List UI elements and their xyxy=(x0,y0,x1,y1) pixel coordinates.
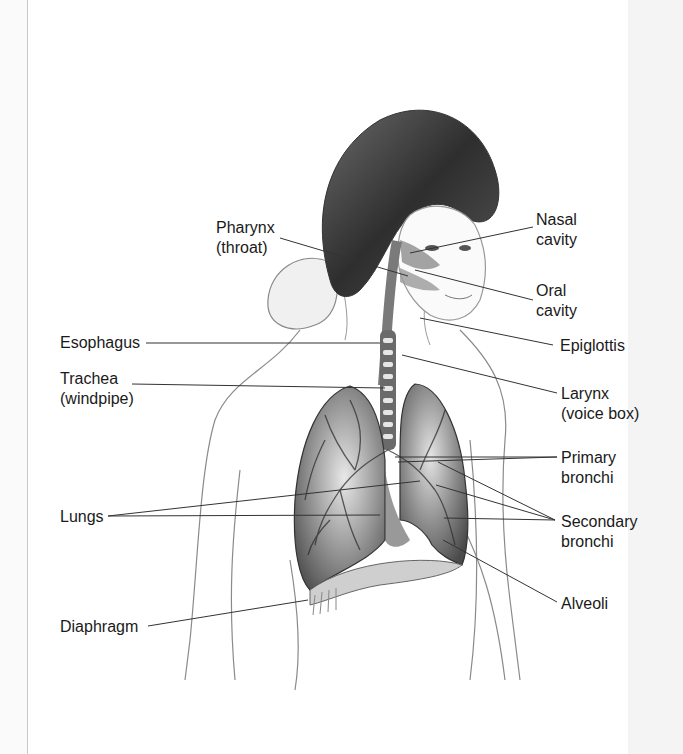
label-alveoli: Alveoli xyxy=(561,594,608,614)
trachea-shape xyxy=(380,330,396,450)
label-trachea: Trachea (windpipe) xyxy=(60,369,134,409)
label-epiglottis: Epiglottis xyxy=(560,336,625,356)
label-primary-bronchi: Primary bronchi xyxy=(561,448,616,488)
label-larynx: Larynx (voice box) xyxy=(561,384,639,424)
label-diaphragm: Diaphragm xyxy=(60,617,138,637)
right-lung-shape xyxy=(400,384,468,565)
label-esophagus: Esophagus xyxy=(60,333,140,353)
label-lungs: Lungs xyxy=(60,507,104,527)
label-pharynx: Pharynx (throat) xyxy=(216,218,275,258)
label-nasal-cavity: Nasal cavity xyxy=(536,210,577,250)
label-oral-cavity: Oral cavity xyxy=(536,281,577,321)
label-secondary-bronchi: Secondary bronchi xyxy=(561,512,638,552)
